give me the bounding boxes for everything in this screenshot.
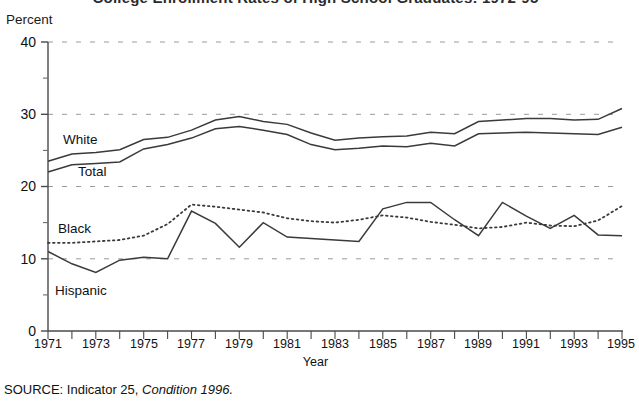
x-tick-label-1983: 1983 [315,338,355,351]
y-tick-label-0: 0 [2,324,36,338]
y-major-ticks [41,42,48,331]
series-line-total [48,127,622,173]
source-prefix: SOURCE: [4,382,63,397]
source-publication: Condition 1996. [142,382,233,397]
series-label-white: White [63,133,98,147]
x-tick-label-1987: 1987 [411,338,451,351]
x-tick-label-1973: 1973 [76,338,116,351]
series-line-black [48,205,622,243]
x-tick-label-1991: 1991 [506,338,546,351]
x-tick-label-1995: 1995 [601,338,639,351]
x-tick-label-1977: 1977 [171,338,211,351]
x-tick-label-1989: 1989 [458,338,498,351]
series-label-hispanic: Hispanic [55,284,107,298]
y-tick-label-20: 20 [2,179,36,193]
source-note: SOURCE: Indicator 25, Condition 1996. [4,382,233,397]
x-tick-label-1975: 1975 [124,338,164,351]
x-tick-label-1985: 1985 [363,338,403,351]
y-tick-label-40: 40 [2,35,36,49]
y-tick-label-10: 10 [2,252,36,266]
x-tick-label-1971: 1971 [28,338,68,351]
gridlines [48,42,621,259]
y-tick-label-30: 30 [2,107,36,121]
x-tick-label-1993: 1993 [554,338,594,351]
source-body: Indicator 25, [67,382,139,397]
series-label-total: Total [78,165,107,179]
x-tick-label-1981: 1981 [267,338,307,351]
series-label-black: Black [58,222,91,236]
x-tick-label-1979: 1979 [219,338,259,351]
x-axis-title: Year [0,355,631,369]
